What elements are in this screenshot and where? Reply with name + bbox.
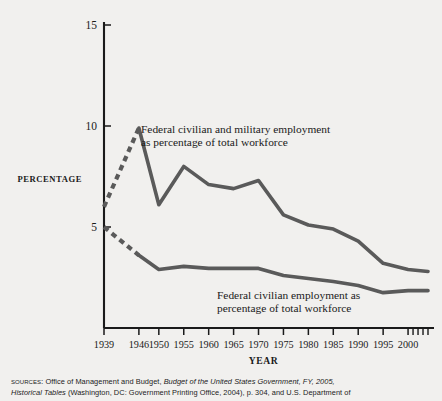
line-chart: 5101519391946195019551960196519701975198… xyxy=(0,0,442,370)
x-tick-label: 1980 xyxy=(298,339,318,350)
x-tick-label: 1975 xyxy=(273,339,293,350)
series-1-label-line2: percentage of total workforce xyxy=(217,302,351,314)
series-1-label-line1: Federal civilian employment as xyxy=(217,289,361,301)
sources-line2-text: (Washington, DC: Government Printing Off… xyxy=(66,388,351,397)
sources-line1-text: Office of Management and Budget, xyxy=(45,377,163,386)
sources-line1-italic: Budget of the United States Government, … xyxy=(164,377,335,386)
sources-citation: SOURCES: Office of Management and Budget… xyxy=(11,377,439,398)
series-0-label-line1: Federal civilian and military employment xyxy=(141,123,331,135)
series-1-dashed-segment xyxy=(104,227,139,255)
x-tick-label: 1955 xyxy=(174,339,194,350)
y-axis-title: PERCENTAGE xyxy=(17,174,82,184)
x-tick-label: 1985 xyxy=(323,339,343,350)
series-0-solid-segment xyxy=(139,128,428,271)
x-tick-label: 1965 xyxy=(223,339,243,350)
x-tick-label: 1990 xyxy=(348,339,368,350)
y-tick-label: 15 xyxy=(86,19,98,31)
x-tick-label: 2000 xyxy=(398,339,418,350)
figure-container: 5101519391946195019551960196519701975198… xyxy=(0,0,442,401)
sources-line2-italic: Historical Tables xyxy=(11,388,66,397)
x-tick-label: 1960 xyxy=(198,339,218,350)
x-axis-title: YEAR xyxy=(249,355,279,366)
x-tick-label: 1995 xyxy=(373,339,393,350)
series-0-dashed-segment xyxy=(104,128,139,207)
x-tick-label: 1950 xyxy=(149,339,169,350)
series-0-label-line2: as percentage of total workforce xyxy=(141,136,288,148)
y-tick-label: 10 xyxy=(86,120,98,132)
series-1-solid-segment xyxy=(139,255,428,292)
x-tick-label: 1946 xyxy=(129,339,149,350)
x-tick-label: 1939 xyxy=(94,339,114,350)
y-tick-label: 5 xyxy=(91,221,97,233)
x-tick-label: 1970 xyxy=(248,339,268,350)
sources-kicker: SOURCES: xyxy=(11,377,43,386)
